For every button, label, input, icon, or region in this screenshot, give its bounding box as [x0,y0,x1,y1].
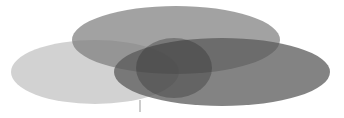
center-overlap [136,38,212,98]
venn-diagram [0,0,344,118]
